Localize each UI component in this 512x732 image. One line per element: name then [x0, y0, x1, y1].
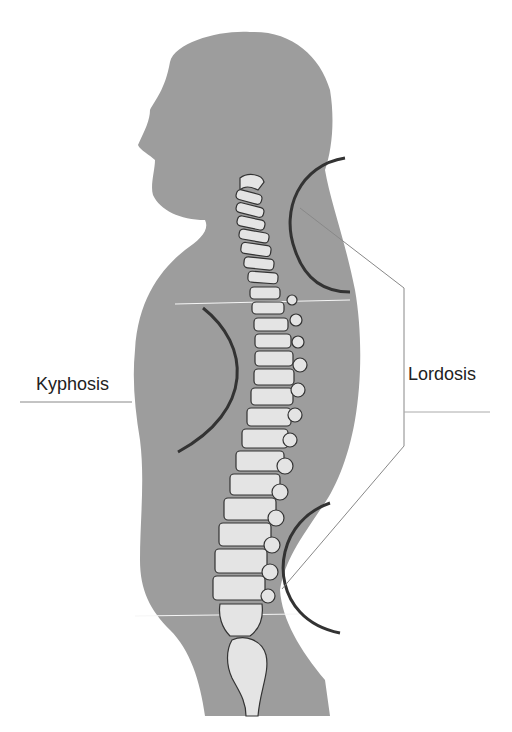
lordosis-label: Lordosis — [408, 364, 476, 385]
kyphosis-label: Kyphosis — [36, 374, 109, 395]
